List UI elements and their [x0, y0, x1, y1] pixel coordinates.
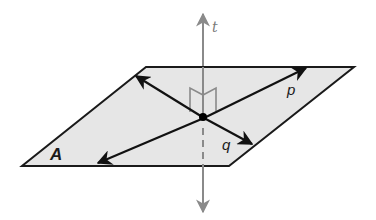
plane-a	[22, 67, 354, 166]
label-q: q	[222, 136, 231, 153]
label-p: p	[286, 81, 295, 98]
label-t: t	[212, 19, 218, 35]
intersection-point	[199, 113, 207, 121]
label-plane-a: A	[49, 145, 62, 164]
perpendicular-line-plane-diagram: t p q A	[0, 0, 376, 220]
